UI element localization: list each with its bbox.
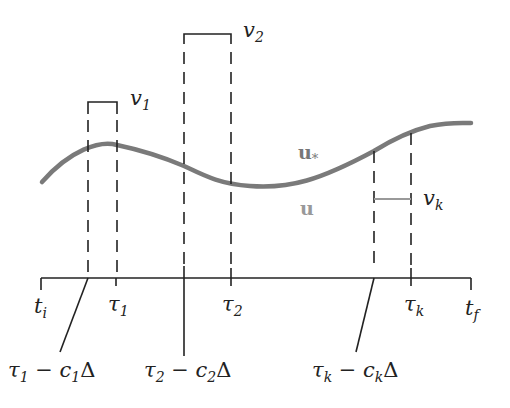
trajectory-curve <box>42 123 471 187</box>
label-vk: vk <box>423 188 443 212</box>
label-v1: v1 <box>130 88 151 112</box>
label-tau1: τ1 <box>108 294 129 318</box>
callout-label-k: τk − ckΔ <box>312 360 398 384</box>
pulse-v2 <box>184 34 231 268</box>
callout-line-1 <box>60 278 88 352</box>
label-v2: v2 <box>243 20 264 44</box>
label-u-star: u* <box>298 143 318 165</box>
label-tf: tf <box>465 298 479 322</box>
timing-diagram: v1 v2 vk u* u ti τ1 τ2 τk tf τ1 − c1Δ τ2… <box>0 0 510 408</box>
pulse-v1 <box>88 102 117 278</box>
label-tau2: τ2 <box>222 294 243 318</box>
callout-label-1: τ1 − c1Δ <box>8 360 95 384</box>
label-tauk: τk <box>404 294 424 318</box>
callout-label-2: τ2 − c2Δ <box>144 360 231 384</box>
callout-line-k <box>356 278 374 352</box>
label-ti: ti <box>34 296 47 320</box>
label-u: u <box>300 199 314 218</box>
pulse-vk <box>374 133 411 268</box>
